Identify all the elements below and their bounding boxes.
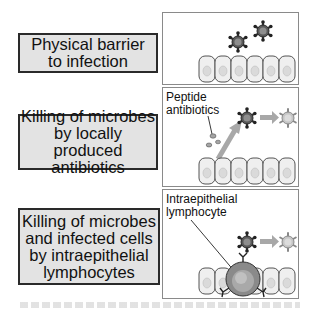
panel-antibiotics: Peptide antibiotics (162, 87, 299, 187)
panel-physical-barrier (162, 12, 299, 85)
label-antibiotics: Killing of microbes by locally produced … (18, 114, 158, 170)
microbe-icon (253, 20, 272, 42)
epithelial-cells-icon (199, 158, 295, 184)
microbe-icon (228, 31, 247, 53)
dead-microbe-icon (280, 109, 296, 127)
microbe-icon (237, 231, 256, 253)
arrow-icon (260, 235, 279, 248)
label-physical-barrier: Physical barrier to infection (18, 33, 158, 73)
arrow-icon (260, 111, 279, 124)
label-line: by locally produced (20, 125, 156, 159)
pointer-line (191, 220, 235, 272)
peptide-icon (206, 134, 220, 147)
label-line: by intraepithelial (22, 247, 156, 264)
panel-intraepithelial: Intraepithelial lymphocyte (162, 189, 299, 299)
label-line: to infection (31, 53, 145, 70)
label-line: Killing of microbes (20, 108, 156, 125)
epithelial-cells-icon (199, 56, 295, 82)
label-line: lymphocytes (22, 264, 156, 281)
arrow-icon (218, 120, 242, 159)
label-line: Physical barrier (31, 36, 145, 53)
caption-cropped (20, 302, 300, 308)
label-line: antibiotics (20, 159, 156, 176)
label-intraepithelial: Killing of microbes and infected cells b… (18, 208, 160, 285)
pointer-line (208, 116, 212, 134)
label-line: Killing of microbes (22, 213, 156, 230)
dead-microbe-icon (280, 233, 296, 251)
label-line: and infected cells (22, 230, 156, 247)
